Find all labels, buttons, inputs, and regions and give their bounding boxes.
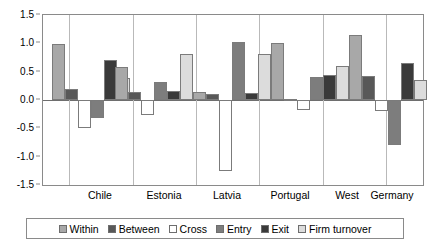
bar-latvia-between	[206, 94, 219, 100]
bar-portugal-between	[284, 99, 297, 101]
bar-latvia-cross	[219, 100, 232, 171]
legend-item-cross[interactable]: Cross	[169, 223, 207, 235]
bar-estonia-within	[115, 67, 128, 100]
y-tick-label: -1.0	[17, 150, 34, 161]
y-tick-label: -0.5	[17, 122, 34, 133]
bar-chart: 1.51.00.50.0-0.5-1.0-1.5 ChileEstoniaLat…	[0, 0, 429, 248]
legend-label: Exit	[272, 223, 290, 235]
group-separator	[259, 15, 260, 185]
legend-item-within[interactable]: Within	[59, 223, 99, 235]
legend-swatch-icon	[59, 225, 67, 233]
group-separator	[133, 15, 134, 185]
bar-west-exit	[401, 63, 414, 100]
plot-area	[42, 14, 424, 186]
legend-label: Cross	[180, 223, 207, 235]
bar-estonia-firm-turnover	[180, 54, 193, 100]
legend-swatch-icon	[108, 225, 116, 233]
bar-portugal-within	[271, 43, 284, 100]
x-axis: ChileEstoniaLatviaPortugalWestGermany	[42, 189, 424, 205]
y-tick-label: 1.0	[20, 37, 34, 48]
legend-label: Between	[119, 223, 160, 235]
legend-item-exit[interactable]: Exit	[261, 223, 290, 235]
x-tick-label-germany: Germany	[370, 189, 413, 201]
x-tick-label-west: West	[335, 189, 359, 201]
x-tick-label-estonia: Estonia	[146, 189, 181, 201]
y-tick-label: -1.5	[17, 179, 34, 190]
bar-portugal-entry	[310, 77, 323, 100]
bar-latvia-entry	[232, 42, 245, 100]
y-tick-mark	[36, 127, 40, 128]
bar-chile-entry	[91, 100, 104, 118]
y-tick-mark	[36, 42, 40, 43]
group-separator	[323, 15, 324, 185]
legend-item-firm-turnover[interactable]: Firm turnover	[298, 223, 371, 235]
legend-item-entry[interactable]: Entry	[216, 223, 252, 235]
bar-west-within	[349, 35, 362, 100]
group-separator	[196, 15, 197, 185]
bar-chile-between	[65, 89, 78, 100]
bar-estonia-cross	[141, 100, 154, 115]
x-tick-label-portugal: Portugal	[270, 189, 309, 201]
group-separator	[69, 15, 70, 185]
bar-estonia-between	[128, 92, 141, 101]
y-axis: 1.51.00.50.0-0.5-1.0-1.5	[0, 14, 40, 186]
y-tick-label: 1.5	[20, 9, 34, 20]
bar-estonia-entry	[154, 82, 167, 100]
legend-swatch-icon	[169, 225, 177, 233]
x-tick-label-latvia: Latvia	[213, 189, 241, 201]
legend-swatch-icon	[298, 225, 306, 233]
legend-label: Entry	[227, 223, 252, 235]
legend-label: Firm turnover	[309, 223, 371, 235]
y-tick-mark	[36, 70, 40, 71]
bar-west-firm-turnover	[414, 80, 427, 100]
legend-label: Within	[70, 223, 99, 235]
y-tick-mark	[36, 14, 40, 15]
y-tick-label: 0.5	[20, 65, 34, 76]
bar-chile-within	[52, 44, 65, 100]
bar-west-cross	[375, 100, 388, 111]
y-tick-mark	[36, 155, 40, 156]
chart-legend: WithinBetweenCrossEntryExitFirm turnover	[26, 218, 404, 239]
bar-portugal-exit	[323, 75, 336, 100]
legend-swatch-icon	[261, 225, 269, 233]
y-tick-mark	[36, 184, 40, 185]
bar-chile-cross	[78, 100, 91, 128]
y-tick-label: 0.0	[20, 94, 34, 105]
bar-latvia-within	[193, 92, 206, 101]
y-tick-mark	[36, 99, 40, 100]
x-tick-label-chile: Chile	[88, 189, 112, 201]
bar-west-between	[362, 76, 375, 100]
bar-latvia-exit	[245, 93, 258, 100]
bar-west-entry	[388, 100, 401, 145]
legend-swatch-icon	[216, 225, 224, 233]
bar-portugal-firm-turnover	[336, 66, 349, 100]
legend-item-between[interactable]: Between	[108, 223, 160, 235]
bar-portugal-cross	[297, 100, 310, 110]
bar-latvia-firm-turnover	[258, 54, 271, 100]
bar-estonia-exit	[167, 91, 180, 100]
